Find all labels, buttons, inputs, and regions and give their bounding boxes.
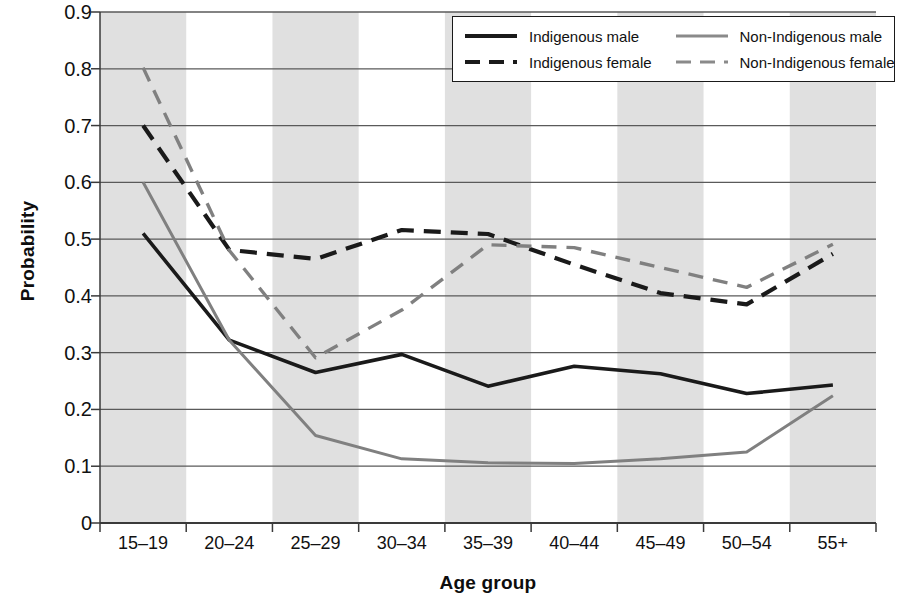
- x-tick-label-55+: 55+: [818, 534, 849, 552]
- band-15–19: [100, 12, 186, 523]
- legend-row: Indigenous male Non-Indigenous male: [463, 23, 884, 49]
- x-tick-label-50–54: 50–54: [722, 534, 772, 552]
- dashed-black-line-icon: [463, 55, 519, 69]
- x-tick-label-35–39: 35–39: [463, 534, 513, 552]
- x-tick-label-30–34: 30–34: [377, 534, 427, 552]
- legend-row: Indigenous female Non-Indigenous female: [463, 49, 884, 75]
- x-tick-label-25–29: 25–29: [291, 534, 341, 552]
- band-25–29: [272, 12, 358, 523]
- legend-entry-non-indigenous-male: Non-Indigenous male: [674, 29, 885, 44]
- plot-area: [0, 0, 916, 608]
- solid-grey-line-icon: [674, 29, 730, 43]
- alternating-bands: [100, 12, 876, 523]
- band-45–49: [617, 12, 703, 523]
- chart-figure: Probability 00.10.20.30.40.50.60.70.80.9…: [0, 0, 916, 608]
- legend-label: Indigenous female: [529, 55, 652, 70]
- legend-entry-indigenous-male: Indigenous male: [463, 29, 674, 44]
- x-tick-label-40–44: 40–44: [549, 534, 599, 552]
- x-tick-label-45–49: 45–49: [635, 534, 685, 552]
- chart-legend: Indigenous male Non-Indigenous male Indi…: [452, 16, 895, 82]
- dashed-grey-line-icon: [674, 55, 730, 69]
- legend-entry-non-indigenous-female: Non-Indigenous female: [674, 55, 885, 70]
- legend-entry-indigenous-female: Indigenous female: [463, 55, 674, 70]
- legend-label: Indigenous male: [529, 29, 639, 44]
- solid-black-line-icon: [463, 29, 519, 43]
- x-tick-label-15–19: 15–19: [118, 534, 168, 552]
- legend-label: Non-Indigenous male: [740, 29, 883, 44]
- x-axis-title: Age group: [100, 572, 876, 594]
- x-tick-label-20–24: 20–24: [204, 534, 254, 552]
- band-55+: [790, 12, 876, 523]
- legend-label: Non-Indigenous female: [740, 55, 895, 70]
